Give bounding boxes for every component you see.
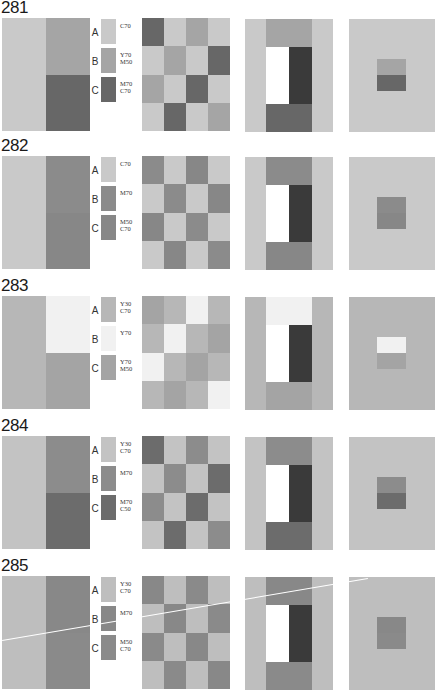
checker-cell (186, 241, 208, 269)
checkerboard (142, 576, 230, 689)
checker-cell (208, 324, 230, 352)
legend-letter: C (91, 643, 99, 654)
legend-code: M70 (120, 469, 132, 476)
checker-cell (186, 381, 208, 409)
upanel-dark-block (289, 325, 312, 382)
upanel-white-block (266, 325, 289, 382)
checker-cell (164, 184, 186, 212)
center-square-bottom (377, 493, 406, 509)
upanel-bottom-block (266, 242, 312, 270)
left-panel-b (46, 156, 90, 213)
center-square-panel (349, 437, 435, 550)
checker-cell (186, 324, 208, 352)
legend-swatch (101, 577, 116, 602)
left-panel-c (46, 75, 90, 132)
legend-code: Y30 C70 (120, 580, 131, 594)
center-square-top (377, 337, 406, 353)
upanel-bottom-block (266, 662, 312, 690)
figure-number: 285 (1, 558, 28, 574)
legend-letter: C (91, 363, 99, 374)
upanel-dark-block (289, 605, 312, 662)
white-dark-panel (245, 157, 333, 270)
checker-cell (208, 633, 230, 661)
checker-cell (208, 353, 230, 381)
checker-cell (164, 18, 186, 46)
upanel-dark-block (289, 185, 312, 242)
checker-cell (164, 353, 186, 381)
checker-cell (208, 156, 230, 184)
center-square-top (377, 197, 406, 213)
center-square-panel (349, 577, 435, 690)
checker-cell (186, 75, 208, 103)
left-panel-b (46, 436, 90, 493)
checker-cell (164, 75, 186, 103)
center-square-panel (349, 19, 435, 132)
checker-cell (208, 241, 230, 269)
upanel-bottom-block (266, 104, 312, 132)
legend-swatch (101, 215, 116, 240)
upanel-top-block (266, 437, 312, 465)
legend-code: Y70 (120, 329, 131, 336)
checker-cell (208, 103, 230, 131)
checker-cell (142, 604, 164, 632)
checker-cell (208, 46, 230, 74)
checker-cell (208, 493, 230, 521)
checker-cell (208, 661, 230, 689)
legend-letter: A (91, 27, 99, 38)
checker-cell (142, 213, 164, 241)
upanel-bottom-block (266, 522, 312, 550)
checker-cell (186, 46, 208, 74)
checker-cell (142, 75, 164, 103)
checker-cell (186, 296, 208, 324)
checker-cell (142, 464, 164, 492)
checker-cell (186, 213, 208, 241)
checker-cell (164, 103, 186, 131)
legend-swatch (101, 606, 116, 631)
legend-code: M50 C70 (120, 218, 132, 232)
legend-code: M70 (120, 609, 132, 616)
checker-cell (164, 493, 186, 521)
checker-cell (208, 184, 230, 212)
legend-letter: B (91, 194, 99, 205)
checker-cell (186, 353, 208, 381)
checker-cell (186, 18, 208, 46)
upanel-bottom-block (266, 382, 312, 410)
legend-letter: A (91, 305, 99, 316)
checker-cell (164, 633, 186, 661)
left-panel-a (2, 156, 46, 269)
checker-cell (164, 464, 186, 492)
checker-cell (142, 156, 164, 184)
center-square-bottom (377, 353, 406, 369)
legend-swatch (101, 326, 116, 351)
legend-letter: C (91, 223, 99, 234)
checker-cell (186, 661, 208, 689)
figure-row: 282AC70BM70CM50 C70 (0, 138, 435, 269)
legend-code: M70 C50 (120, 498, 132, 512)
legend-letter: C (91, 503, 99, 514)
white-dark-panel (245, 297, 333, 410)
checker-cell (142, 353, 164, 381)
legend-letter: B (91, 474, 99, 485)
center-square-bottom (377, 633, 406, 649)
legend-letter: B (91, 56, 99, 67)
checker-cell (164, 521, 186, 549)
figure-number: 284 (1, 418, 28, 434)
checker-cell (164, 296, 186, 324)
checker-cell (208, 296, 230, 324)
checker-cell (142, 661, 164, 689)
legend-swatch (101, 466, 116, 491)
legend-swatch (101, 355, 116, 380)
legend-swatch (101, 19, 116, 44)
checker-cell (164, 241, 186, 269)
figure-number: 281 (1, 0, 28, 16)
checker-cell (142, 381, 164, 409)
checker-cell (142, 103, 164, 131)
center-square-bottom (377, 213, 406, 229)
legend-swatch (101, 495, 116, 520)
checker-cell (164, 324, 186, 352)
checker-cell (208, 576, 230, 604)
center-square-panel (349, 297, 435, 410)
legend-swatch (101, 437, 116, 462)
figure-row: 281AC70BY70 M50CM70 C70 (0, 0, 435, 131)
figure-row: 284AY30 C70BM70CM70 C50 (0, 418, 435, 549)
